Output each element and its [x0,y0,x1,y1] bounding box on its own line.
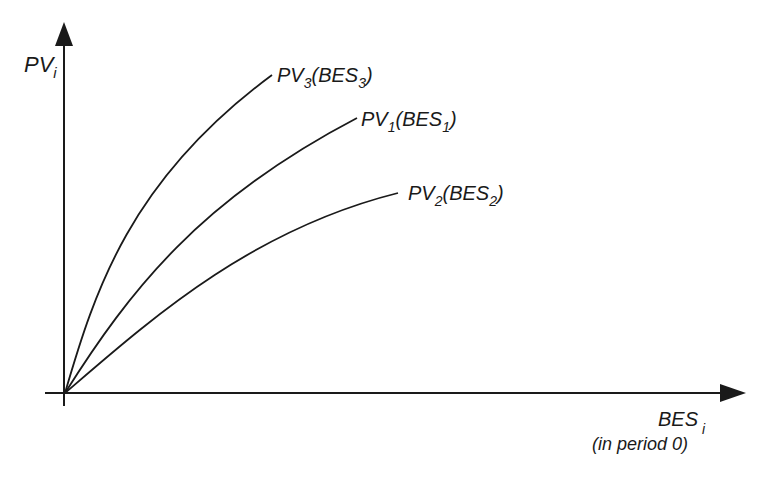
y-axis-label: PVi [24,52,57,81]
curve-label-pv2: PV2(BES2) [408,182,504,209]
curve-label-pv3: PV3(BES3) [277,64,373,91]
curve-pv2 [65,193,398,393]
curve-pv1 [65,118,357,393]
x-axis-arrow-icon [720,384,746,402]
x-axis-label: BESi [658,408,706,437]
x-axis-note: (in period 0) [592,434,688,454]
curve-label-pv1: PV1(BES1) [361,108,457,135]
pv-bes-diagram: PVi PV3(BES3) PV1(BES1) PV2(BES2) BESi (… [0,0,767,484]
y-axis [55,22,73,406]
y-axis-arrow-icon [55,22,73,46]
x-axis [45,384,746,402]
